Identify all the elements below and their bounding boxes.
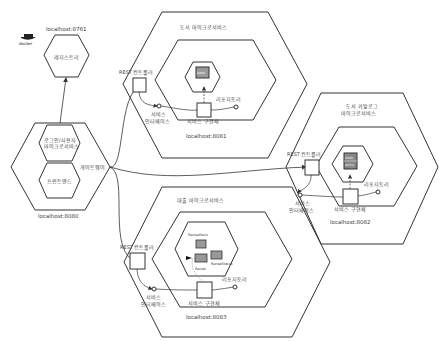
rental-entity: [195, 254, 207, 262]
rental-service-inner-hexagon: [152, 212, 292, 307]
catalog-repository-label: 리포지토리: [364, 181, 389, 188]
rental-service-host: localhost:8083: [186, 314, 227, 321]
gateway-label: 게이트웨이: [80, 164, 105, 171]
book-rest-controller-box: [133, 78, 146, 92]
catalog-entity-label-1: book: [345, 155, 353, 162]
catalog-service-title-2: 마이크로서비스: [341, 110, 376, 117]
rental-repository-label: 리포지토리: [222, 276, 247, 283]
rental-controller-label: REST 컨트롤러: [120, 244, 154, 251]
rental-domain-hexagon: [175, 222, 238, 276]
book-entity-label: book: [197, 70, 205, 77]
catalog-service-title-1: 도서 카탈로그: [346, 103, 378, 110]
catalog-controller-label: REST 컨트롤러: [287, 151, 321, 158]
book-service-impl-box: [197, 103, 211, 117]
book-interface-label-2: 인터페이스: [145, 118, 170, 125]
frontend-label: 프런트엔드: [47, 178, 72, 185]
rented-item-label: RentedItem: [188, 232, 208, 239]
rental-label: Rental: [195, 266, 206, 273]
rental-service-impl-box: [197, 282, 212, 298]
book-repository-port: [234, 105, 238, 109]
catalog-service-impl-box: [343, 189, 358, 204]
docker-label: docker: [19, 41, 32, 46]
rental-rest-controller-box: [130, 253, 145, 269]
catalog-repository-port: [376, 190, 380, 194]
catalog-entity-label-2: entry: [345, 162, 354, 169]
catalog-rest-controller-box: [305, 160, 319, 175]
catalog-service-interface-port: [298, 193, 302, 197]
catalog-interface-label-2: 인터페이스: [289, 207, 314, 214]
rental-service-interface-port: [152, 287, 156, 291]
rental-service-title: 대출 마이크로서비스: [177, 197, 224, 204]
rental-status-entity: [211, 251, 222, 259]
catalog-impl-label: 서비스 구현체: [334, 206, 366, 213]
architecture-diagram: docker localhost:8761 레지스트리 로그인/사용자 마이크로…: [0, 0, 439, 341]
registry-label: 레지스트리: [54, 54, 79, 61]
rental-status-label: RentalStatus: [211, 261, 233, 268]
diagram-shapes: [0, 0, 439, 341]
registry-host: localhost:8761: [46, 26, 87, 33]
login-user-label-2: 마이크로서비스: [44, 143, 79, 150]
book-repository-label: 리포지토리: [216, 96, 241, 103]
catalog-interface-label-1: 서비스: [295, 200, 310, 207]
gateway-host: localhost:8080: [38, 213, 79, 220]
docker-badge: docker: [19, 33, 37, 47]
catalog-service-host: localhost:8082: [330, 219, 371, 226]
book-interface-label-1: 서비스: [151, 111, 166, 118]
book-service-title: 도서 마이크로서비스: [180, 24, 227, 31]
book-controller-label: REST 컨트롤러: [119, 69, 153, 76]
rented-item-entity: [196, 240, 206, 248]
book-service-interface-port: [157, 104, 161, 108]
rental-repository-port: [233, 285, 237, 289]
rental-interface-label-1: 서비스: [146, 294, 161, 301]
rental-impl-label: 서비스 구현체: [188, 300, 220, 307]
book-impl-label: 서비스 구현체: [187, 118, 219, 125]
book-service-host: localhost:8081: [186, 133, 227, 140]
rental-interface-label-2: 인터페이스: [141, 301, 166, 308]
